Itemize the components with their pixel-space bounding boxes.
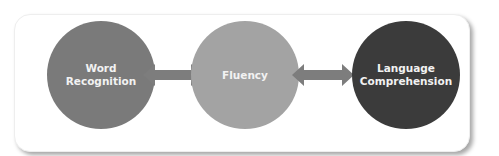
node-label: Word bbox=[85, 62, 116, 74]
node-language-comprehension: LanguageComprehension bbox=[352, 21, 460, 129]
node-word-recognition: WordRecognition bbox=[47, 21, 155, 129]
node-fluency: Fluency bbox=[191, 21, 299, 129]
double-arrow-icon bbox=[292, 63, 354, 87]
node-label: Language bbox=[377, 62, 435, 74]
node-label: Comprehension bbox=[360, 75, 452, 87]
node-label: Fluency bbox=[222, 69, 268, 81]
node-label: Recognition bbox=[66, 75, 137, 87]
